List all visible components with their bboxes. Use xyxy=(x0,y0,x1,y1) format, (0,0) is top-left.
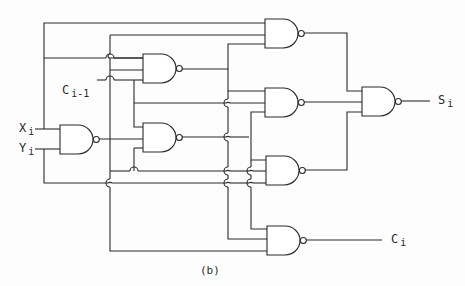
nand-gate-lower xyxy=(266,156,305,185)
input-label-x: Xi xyxy=(19,122,34,135)
input-label-carry-in: Ci-1 xyxy=(62,84,89,97)
nand-gate-xy xyxy=(60,125,99,154)
nand-gate-sum xyxy=(362,87,401,116)
figure-caption: (b) xyxy=(200,264,220,277)
nand-gate-center xyxy=(265,88,304,117)
output-label-carry: Ci xyxy=(391,233,406,246)
nand-gate-carry-out xyxy=(267,226,306,255)
nand-gate-mid xyxy=(143,123,182,152)
nand-gate-carry-in xyxy=(143,54,182,83)
input-label-y: Yi xyxy=(19,142,34,155)
output-label-sum: Si xyxy=(438,94,453,107)
nand-gate-top xyxy=(265,19,304,48)
circuit-diagram: Ci-1 Xi Yi Si Ci (b) xyxy=(0,0,465,286)
